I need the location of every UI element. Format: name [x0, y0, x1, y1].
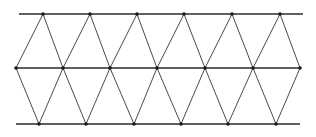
- top-diagonal-edge: [253, 14, 280, 68]
- middle-vertex-dot: [155, 66, 159, 70]
- top-vertex-dot: [135, 12, 139, 16]
- bottom-diagonal-edge: [181, 68, 205, 124]
- top-vertex-dot: [88, 12, 92, 16]
- bottom-vertex-dot: [226, 122, 230, 126]
- bottom-diagonal-edge: [134, 68, 157, 124]
- top-diagonal-edge: [110, 14, 137, 68]
- top-vertex-dot: [278, 12, 282, 16]
- top-diagonal-edge: [43, 14, 63, 68]
- top-vertex-dot: [230, 12, 234, 16]
- middle-vertex-dot: [251, 66, 255, 70]
- top-diagonal-edge: [232, 14, 253, 68]
- middle-vertex-dot: [61, 66, 65, 70]
- middle-vertex-dot: [14, 66, 18, 70]
- top-diagonal-edge: [184, 14, 205, 68]
- top-diagonal-edge: [63, 14, 90, 68]
- top-diagonal-edge: [205, 14, 232, 68]
- bottom-diagonal-edge: [276, 68, 300, 124]
- bottom-vertex-dot: [84, 122, 88, 126]
- bottom-diagonal-edge: [157, 68, 181, 124]
- bottom-diagonal-edge: [16, 68, 39, 124]
- top-diagonal-edge: [157, 14, 184, 68]
- bottom-diagonal-edge: [63, 68, 86, 124]
- bottom-diagonal-edge: [228, 68, 253, 124]
- bottom-vertex-dot: [37, 122, 41, 126]
- bottom-vertex-dot: [274, 122, 278, 126]
- bottom-vertex-dot: [179, 122, 183, 126]
- top-diagonal-edge: [280, 14, 300, 68]
- middle-vertex-dot: [108, 66, 112, 70]
- middle-vertex-dot: [298, 66, 302, 70]
- top-diagonal-edge: [16, 14, 43, 68]
- middle-vertex-dot: [203, 66, 207, 70]
- top-diagonal-edge: [90, 14, 110, 68]
- bottom-diagonal-edge: [110, 68, 134, 124]
- top-vertex-dot: [182, 12, 186, 16]
- bottom-diagonal-edge: [253, 68, 276, 124]
- lattice-vertices: [14, 12, 302, 126]
- horizontal-lines: [16, 14, 303, 124]
- bottom-diagonal-edge: [86, 68, 110, 124]
- top-diagonal-edge: [137, 14, 157, 68]
- triangular-lattice-diagram: [0, 0, 316, 137]
- bottom-vertex-dot: [132, 122, 136, 126]
- bottom-diagonal-edge: [205, 68, 228, 124]
- top-vertex-dot: [41, 12, 45, 16]
- bottom-diagonal-edge: [39, 68, 63, 124]
